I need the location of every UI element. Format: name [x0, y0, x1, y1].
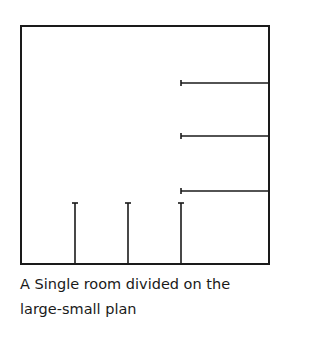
vertical-partitions [72, 203, 184, 264]
caption-line-2: large-small plan [20, 297, 290, 322]
caption-line-1: A Single room divided on the [20, 272, 290, 297]
room-outline [21, 26, 269, 264]
figure-caption: A Single room divided on the large-small… [20, 272, 290, 322]
horizontal-partitions [181, 80, 269, 194]
